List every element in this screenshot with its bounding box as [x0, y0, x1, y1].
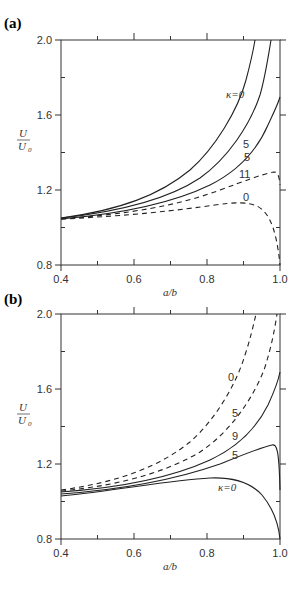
- curve-label-b-d0: 0: [228, 371, 234, 383]
- y-tick-label: 0.8: [37, 259, 52, 271]
- curve-solid-k0: [61, 40, 255, 218]
- x-tick-label: 0.8: [199, 273, 214, 285]
- curve-label-b-s9: 9: [232, 430, 238, 442]
- curves-b: [61, 314, 280, 539]
- curve-label-a-k11: 11: [239, 168, 250, 180]
- x-tick-label: 0.6: [126, 273, 141, 285]
- curve-label-b-d5: 5: [232, 407, 238, 419]
- svg-text:0: 0: [28, 420, 32, 428]
- y-axis-title-a: U U 0: [17, 127, 32, 154]
- curve-label-a-k0: κ=0: [226, 88, 245, 100]
- panel-b-label: (b): [4, 291, 22, 308]
- y-tick-label: 2.0: [37, 34, 52, 46]
- curve-label-b-s5: 5: [232, 449, 238, 461]
- svg-text:U: U: [18, 414, 27, 426]
- y-tick-label: 0.8: [37, 533, 52, 545]
- svg-text:0: 0: [28, 146, 32, 154]
- y-tick-label: 1.6: [37, 109, 52, 121]
- x-axis-title-b: a/b: [163, 560, 178, 572]
- curve-label-a-d5: 5: [244, 151, 250, 163]
- y-tick-label: 1.2: [37, 184, 52, 196]
- panel-a: (a): [4, 15, 288, 298]
- x-tick-label: 0.4: [53, 547, 68, 559]
- svg-text:U: U: [19, 401, 28, 413]
- curve-solid-k9: [61, 372, 280, 492]
- x-tick-label: 1.0: [272, 273, 287, 285]
- y-ticks-b: [55, 352, 286, 502]
- curve-dashed-k5: [61, 314, 277, 491]
- y-axis-title-b: U U 0: [17, 401, 32, 428]
- svg-text:U: U: [19, 127, 28, 139]
- curve-label-b-k0: κ=0: [218, 481, 237, 493]
- curve-solid-k0: [61, 478, 280, 539]
- y-tick-label: 1.6: [37, 383, 52, 395]
- curve-solid-k5: [61, 445, 280, 494]
- x-axis-title-a: a/b: [163, 286, 178, 298]
- svg-text:U: U: [18, 140, 27, 152]
- curve-label-a-d0: 0: [243, 191, 249, 203]
- curve-dashed-k0: [61, 314, 256, 490]
- y-tick-label: 2.0: [37, 308, 52, 320]
- panel-b: (b): [4, 291, 288, 572]
- curve-solid-k5: [61, 40, 271, 218]
- x-tick-label: 0.8: [199, 547, 214, 559]
- panel-a-label: (a): [4, 15, 22, 32]
- curve-label-a-k5: 5: [243, 138, 249, 150]
- x-tick-label: 1.0: [272, 547, 287, 559]
- figure: (a): [0, 0, 308, 593]
- y-tick-label: 1.2: [37, 458, 52, 470]
- x-ticks-a: [98, 33, 244, 265]
- x-tick-label: 0.6: [126, 547, 141, 559]
- plot-frame-b: [61, 314, 280, 539]
- x-tick-label: 0.4: [53, 273, 68, 285]
- x-ticks-b: [98, 307, 244, 539]
